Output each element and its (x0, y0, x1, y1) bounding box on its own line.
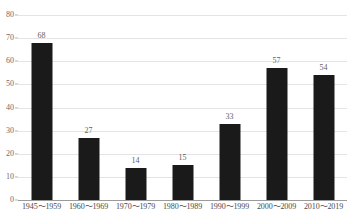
y-tick-label: 80 (6, 11, 14, 19)
bar-group: 57 (253, 15, 300, 200)
bar-value-label: 14 (132, 157, 140, 165)
plot-area: 01020304050607080 68271415335754 (18, 15, 347, 200)
x-tick-label: 1980～1989 (163, 203, 202, 211)
x-tick-label: 1960～1969 (69, 203, 108, 211)
bar-value-label: 33 (226, 113, 234, 121)
x-tick-label: 1970～1979 (116, 203, 155, 211)
bar-value-label: 27 (85, 127, 93, 135)
bar[interactable] (266, 68, 287, 200)
y-tick-label: 0 (10, 196, 14, 204)
y-tick-label: 40 (6, 104, 14, 112)
x-axis-baseline (18, 200, 347, 201)
bar[interactable] (219, 124, 240, 200)
bar-group: 14 (112, 15, 159, 200)
bar[interactable] (78, 138, 99, 200)
bar[interactable] (125, 168, 146, 200)
bar-value-label: 15 (179, 154, 187, 162)
x-tick-label: 1945～1959 (22, 203, 61, 211)
bar-value-label: 54 (320, 64, 328, 72)
bars-layer: 68271415335754 (18, 15, 347, 200)
bar-group: 68 (18, 15, 65, 200)
bar[interactable] (31, 43, 52, 200)
bar-group: 33 (206, 15, 253, 200)
bar-chart: 01020304050607080 68271415335754 1945～19… (0, 0, 353, 220)
bar-group: 15 (159, 15, 206, 200)
bar[interactable] (313, 75, 334, 200)
x-tick-label: 2010～2019 (304, 203, 343, 211)
bar-value-label: 57 (273, 57, 281, 65)
x-tick-label: 2000～2009 (257, 203, 296, 211)
x-tick-label: 1990～1999 (210, 203, 249, 211)
bar[interactable] (172, 165, 193, 200)
y-tick-label: 20 (6, 150, 14, 158)
y-tick-label: 30 (6, 127, 14, 135)
bar-value-label: 68 (38, 32, 46, 40)
y-tick-label: 50 (6, 80, 14, 88)
y-tick-label: 10 (6, 173, 14, 181)
y-tick-label: 60 (6, 57, 14, 65)
y-tick-label: 70 (6, 34, 14, 42)
bar-group: 27 (65, 15, 112, 200)
bar-group: 54 (300, 15, 347, 200)
